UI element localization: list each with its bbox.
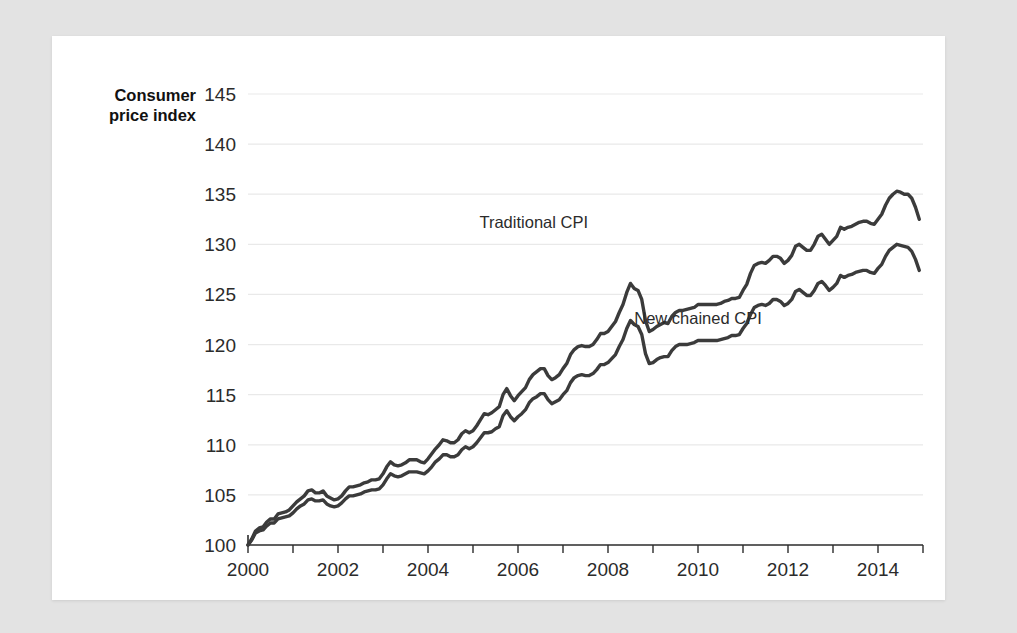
y-tick-label-135: 135 — [204, 184, 236, 205]
y-axis-title: Consumer price index — [109, 86, 197, 124]
cpi-line-chart: 100105110115120125130135140145 200020022… — [0, 0, 1017, 633]
x-tick-label-2008: 2008 — [587, 559, 629, 580]
tick-marks — [248, 545, 923, 553]
y-tick-label-120: 120 — [204, 335, 236, 356]
y-tick-label-100: 100 — [204, 535, 236, 556]
x-axis-tick-labels: 20002002200420062008201020122014 — [227, 559, 900, 580]
x-tick-label-2000: 2000 — [227, 559, 269, 580]
y-tick-label-145: 145 — [204, 84, 236, 105]
x-tick-label-2010: 2010 — [677, 559, 719, 580]
y-axis-tick-labels: 100105110115120125130135140145 — [204, 84, 236, 556]
traditional-cpi-label: Traditional CPI — [479, 213, 588, 231]
y-tick-label-130: 130 — [204, 234, 236, 255]
y-tick-label-105: 105 — [204, 485, 236, 506]
y-tick-label-140: 140 — [204, 134, 236, 155]
y-axis-title-line-1: Consumer — [114, 86, 196, 104]
x-tick-label-2012: 2012 — [767, 559, 809, 580]
x-tick-label-2002: 2002 — [317, 559, 359, 580]
y-tick-label-125: 125 — [204, 284, 236, 305]
gridlines — [248, 94, 923, 495]
new-chained-cpi-label: New chained CPI — [634, 309, 761, 327]
x-tick-label-2004: 2004 — [407, 559, 450, 580]
y-tick-label-110: 110 — [206, 435, 236, 456]
y-axis-title-line-2: price index — [109, 106, 197, 124]
x-tick-label-2014: 2014 — [857, 559, 900, 580]
axes — [248, 535, 923, 545]
x-tick-label-2006: 2006 — [497, 559, 539, 580]
y-tick-label-115: 115 — [206, 385, 236, 406]
